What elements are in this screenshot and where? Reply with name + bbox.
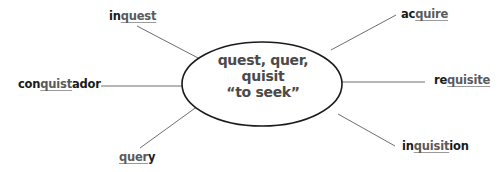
connector-inquisition	[338, 114, 395, 146]
root-line-1: quest, quer,	[187, 52, 339, 68]
word-suffix: ador	[72, 77, 101, 91]
word-suffix: y	[148, 150, 155, 164]
connector-query	[140, 106, 198, 148]
connector-acquire	[331, 15, 396, 50]
word-root: quisit	[414, 139, 449, 153]
word-suffix: ion	[449, 139, 468, 153]
word-acquire: acquire	[401, 7, 448, 21]
word-requisite: requisite	[434, 73, 490, 87]
word-prefix: ac	[401, 7, 415, 21]
word-root: quisite	[447, 73, 490, 87]
word-prefix: in	[109, 9, 121, 23]
word-prefix: re	[434, 73, 447, 87]
word-inquisition: inquisition	[402, 139, 469, 153]
root-line-3: “to seek”	[187, 84, 339, 100]
root-definition: quest, quer, quisit “to seek”	[187, 52, 339, 100]
word-prefix: in	[402, 139, 414, 153]
word-root: quest	[121, 9, 157, 23]
word-conquistador: conquistador	[18, 77, 101, 91]
word-root: quire	[415, 7, 448, 21]
word-inquest: inquest	[109, 9, 156, 23]
word-query: query	[119, 150, 155, 164]
word-root: quer	[119, 150, 148, 164]
word-root: quist	[40, 77, 72, 91]
root-line-2: quisit	[187, 68, 339, 84]
word-prefix: con	[18, 77, 40, 91]
